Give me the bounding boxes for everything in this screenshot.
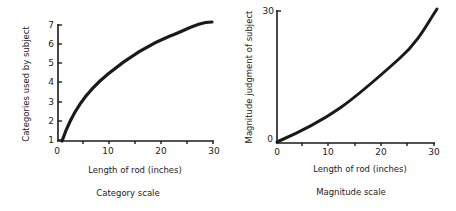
left-x-tick-labels: 0 10 20 30 — [54, 146, 220, 156]
right-x-tick-20: 20 — [375, 147, 387, 157]
right-x-axis-label: Length of rod (inches) — [313, 164, 407, 174]
left-x-tick-20: 20 — [155, 146, 167, 156]
left-x-tick-0: 0 — [54, 146, 60, 156]
category-curve — [62, 22, 212, 141]
left-y-tick-4: 4 — [48, 77, 54, 87]
right-x-tick-0: 0 — [274, 147, 280, 157]
left-y-axis-label: Categories used by subject — [21, 26, 31, 142]
figure: 7 6 5 4 3 2 1 0 10 20 30 Categories used… — [0, 0, 456, 211]
left-x-tick-30: 30 — [208, 146, 220, 156]
right-y-axis-label: Magnitude judgment of subject — [244, 10, 254, 144]
right-x-tick-30: 30 — [428, 147, 440, 157]
right-x-tick-labels: 0 10 20 30 — [274, 147, 440, 157]
magnitude-scale-chart: 30 0 0 10 20 30 Magnitude judgment of su… — [244, 6, 440, 197]
left-y-tick-2: 2 — [48, 116, 54, 126]
left-y-tick-6: 6 — [48, 39, 54, 49]
left-y-tick-1: 1 — [48, 135, 54, 145]
right-y-tick-labels: 30 0 — [263, 6, 275, 144]
left-x-axis-label: Length of rod (inches) — [88, 165, 182, 175]
left-y-tick-5: 5 — [48, 58, 54, 68]
right-y-tick-0: 0 — [267, 134, 273, 144]
category-scale-chart: 7 6 5 4 3 2 1 0 10 20 30 Categories used… — [21, 20, 220, 198]
left-x-tick-10: 10 — [102, 146, 114, 156]
left-caption: Category scale — [96, 188, 159, 198]
left-y-tick-7: 7 — [48, 20, 54, 30]
left-y-tick-labels: 7 6 5 4 3 2 1 — [48, 20, 54, 145]
figure-svg: 7 6 5 4 3 2 1 0 10 20 30 Categories used… — [0, 0, 456, 211]
right-x-tick-10: 10 — [322, 147, 334, 157]
right-caption: Magnitude scale — [316, 187, 386, 197]
left-y-tick-3: 3 — [48, 97, 54, 107]
magnitude-curve — [277, 9, 437, 142]
right-y-tick-30: 30 — [263, 6, 275, 16]
